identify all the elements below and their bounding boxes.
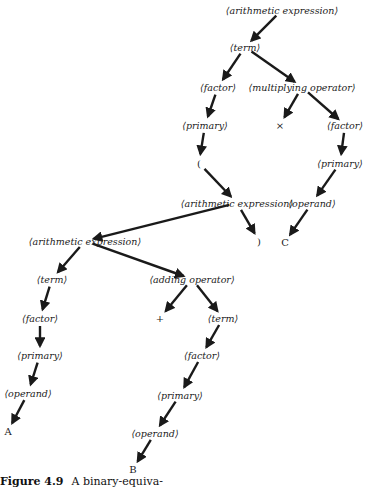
nonterminal-node: ⟨multiplying operator⟩ (249, 82, 356, 93)
tree-nodes: ⟨arithmetic expression⟩⟨term⟩⟨factor⟩⟨mu… (3, 5, 363, 475)
tree-edge-arrow (290, 210, 307, 235)
nonterminal-node: ⟨primary⟩ (317, 158, 363, 169)
figure-label: Figure 4.9 (0, 475, 63, 488)
terminal-symbol: ( (197, 158, 201, 169)
tree-edge-arrow (166, 285, 187, 311)
tree-edge-arrow (308, 92, 338, 119)
nonterminal-node: ⟨factor⟩ (327, 120, 363, 131)
tree-edge-arrow (200, 133, 203, 154)
terminal-symbol: × (276, 120, 284, 131)
nonterminal-node: ⟨arithmetic expression⟩ (181, 198, 293, 209)
figure-caption: Figure 4.9A binary-equiva- (0, 475, 163, 488)
tree-edge-arrow (206, 325, 219, 347)
tree-edge-arrow (205, 169, 231, 197)
terminal-symbol: A (3, 426, 12, 437)
tree-edge-arrow (94, 205, 230, 239)
tree-edge-arrow (241, 210, 255, 233)
tree-edge-arrow (31, 363, 38, 385)
tree-edge-arrow (58, 247, 80, 272)
nonterminal-node: ⟨adding operator⟩ (149, 274, 234, 285)
tree-edge-arrow (184, 362, 198, 387)
tree-edge-arrow (341, 133, 344, 154)
nonterminal-node: ⟨primary⟩ (157, 390, 203, 401)
tree-edge-arrow (208, 95, 216, 117)
terminal-symbol: B (129, 464, 136, 475)
nonterminal-node: ⟨operand⟩ (131, 428, 178, 439)
nonterminal-node: ⟨factor⟩ (22, 313, 58, 324)
nonterminal-node: ⟨factor⟩ (200, 82, 236, 93)
tree-edge-arrow (43, 287, 50, 310)
nonterminal-node: ⟨operand⟩ (288, 198, 335, 209)
nonterminal-node: ⟨primary⟩ (182, 120, 228, 131)
tree-edge-arrow (317, 170, 335, 196)
nonterminal-node: ⟨arithmetic expression⟩ (226, 5, 338, 16)
terminal-symbol: ) (257, 236, 261, 247)
tree-edge-arrow (251, 16, 276, 41)
nonterminal-node: ⟨term⟩ (230, 42, 260, 53)
tree-edge-arrow (197, 285, 217, 311)
nonterminal-node: ⟨arithmetic expression⟩ (29, 236, 141, 247)
nonterminal-node: ⟨term⟩ (208, 313, 238, 324)
nonterminal-node: ⟨term⟩ (37, 274, 67, 285)
tree-edge-arrow (138, 440, 151, 462)
tree-edge-arrow (93, 244, 184, 276)
tree-edge-arrow (160, 402, 176, 426)
nonterminal-node: ⟨operand⟩ (4, 388, 51, 399)
nonterminal-node: ⟨factor⟩ (184, 350, 220, 361)
terminal-symbol: C (281, 237, 289, 248)
tree-edge-arrow (12, 400, 24, 423)
parse-tree-diagram: ⟨arithmetic expression⟩⟨term⟩⟨factor⟩⟨mu… (0, 0, 373, 490)
tree-edge-arrow (285, 94, 299, 117)
nonterminal-node: ⟨primary⟩ (17, 350, 63, 361)
terminal-symbol: + (156, 313, 164, 324)
figure-caption-text: A binary-equiva- (71, 475, 162, 488)
tree-edge-arrow (223, 54, 241, 80)
tree-edge-arrow (252, 52, 295, 82)
